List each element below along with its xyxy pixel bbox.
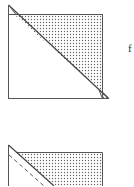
figure-label-f: f	[128, 42, 132, 54]
bottom-right-flap	[99, 90, 109, 99]
top-left-flap	[9, 5, 17, 15]
bottom-figure	[9, 145, 103, 186]
top-figure	[9, 5, 110, 99]
shaded-region	[16, 153, 103, 187]
diagram-canvas	[0, 0, 134, 186]
